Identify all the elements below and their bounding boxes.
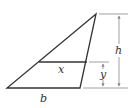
triangle-diagram: h y x b: [0, 0, 131, 108]
triangle-shape: [7, 14, 96, 88]
offset-label: y: [99, 68, 107, 81]
cross-section-label: x: [58, 63, 65, 76]
height-label: h: [115, 44, 122, 57]
base-label: b: [40, 92, 47, 105]
